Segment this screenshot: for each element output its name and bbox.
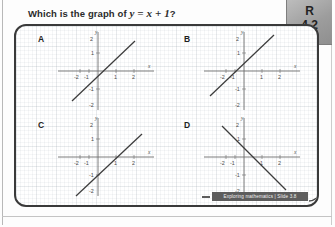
- graph-a: -2 -1 1 2 1 2 -1 -2 y x: [50, 28, 162, 114]
- graph-d-ylabel: y: [240, 115, 244, 121]
- footer-dash: [202, 196, 210, 198]
- graph-b-ytick--2: -2: [235, 102, 240, 108]
- content-panel: A -2 -1 1 2 1 2 -1 -2: [14, 24, 319, 207]
- footer-credit: Exploring mathematics | Slide 3.8: [212, 192, 308, 201]
- graph-d-line: [222, 126, 286, 190]
- graph-c-xtick-1: 1: [114, 160, 117, 166]
- graph-c-ytick-2: 2: [90, 122, 93, 128]
- graph-d-xtick-2: 2: [278, 160, 281, 166]
- graph-a-ylabel: y: [94, 29, 98, 35]
- graph-c-ytick--2: -2: [89, 188, 94, 194]
- graph-a-ytick--1: -1: [89, 86, 94, 92]
- graph-d-xlabel: x: [293, 149, 297, 155]
- graph-b-xtick--2: -2: [220, 74, 225, 80]
- graph-c-ylabel: y: [94, 115, 98, 121]
- graph-a-ytick--2: -2: [89, 102, 94, 108]
- graph-b-ytick--1: -1: [235, 86, 240, 92]
- page-frame-bottom-rule: [2, 216, 332, 217]
- footer-swoosh-icon: [308, 189, 319, 203]
- option-d[interactable]: D -2 -1 1 2 1 2 -1 -2 y x: [166, 114, 314, 200]
- option-d-label: D: [184, 120, 190, 130]
- option-b[interactable]: B -2 -1 1 2 1 2 -1 -2 y x: [166, 28, 314, 114]
- graph-a-ytick-1: 1: [91, 50, 94, 56]
- option-c[interactable]: C -2 -1 1 2 1 2 -1 -2 y x: [20, 114, 168, 200]
- graph-a-xtick-1: 1: [114, 74, 117, 80]
- graph-d-xtick--1: -1: [230, 160, 235, 166]
- graph-c-xtick--1: -1: [84, 160, 89, 166]
- graph-b-xlabel: x: [293, 63, 297, 69]
- graph-c: -2 -1 1 2 1 2 -1 -2 y x: [50, 114, 162, 200]
- graph-a-ytick-2: 2: [90, 36, 93, 42]
- graph-a-xtick--1: -1: [84, 74, 89, 80]
- graph-c-ytick-1: 1: [91, 136, 94, 142]
- graph-c-ytick--1: -1: [89, 172, 94, 178]
- graph-d: -2 -1 1 2 1 2 -1 -2 y x: [196, 114, 308, 200]
- option-a[interactable]: A -2 -1 1 2 1 2 -1 -2: [20, 28, 168, 114]
- graph-d-ytick--1: -1: [235, 172, 240, 178]
- graph-c-xtick-2: 2: [132, 160, 135, 166]
- option-b-label: B: [184, 34, 190, 44]
- graph-b-ytick-1: 1: [237, 50, 240, 56]
- graph-b-xtick-1: 1: [260, 74, 263, 80]
- title-prefix: Which is the graph of: [28, 8, 127, 19]
- graph-a-xtick-2: 2: [132, 74, 135, 80]
- badge-letter: R: [287, 5, 332, 18]
- slide-screenshot: Which is the graph of y = x + 1? R 4.2 A: [0, 0, 335, 227]
- graph-b-ylabel: y: [240, 29, 244, 35]
- title-equation: y = x + 1: [129, 7, 169, 19]
- graph-b-xtick-2: 2: [278, 74, 281, 80]
- graph-b-ytick-2: 2: [236, 36, 239, 42]
- title-suffix: ?: [170, 8, 176, 19]
- option-a-label: A: [38, 34, 44, 44]
- graph-d-xtick--2: -2: [220, 160, 225, 166]
- option-c-label: C: [38, 120, 44, 130]
- graph-b: -2 -1 1 2 1 2 -1 -2 y x: [196, 28, 308, 114]
- graph-a-xlabel: x: [147, 63, 151, 69]
- graph-d-ytick-2: 2: [236, 122, 239, 128]
- graph-c-xlabel: x: [147, 149, 151, 155]
- graph-c-xtick--2: -2: [74, 160, 79, 166]
- page-title: Which is the graph of y = x + 1?: [28, 7, 176, 19]
- graph-a-xtick--2: -2: [74, 74, 79, 80]
- graph-b-line: [210, 35, 274, 96]
